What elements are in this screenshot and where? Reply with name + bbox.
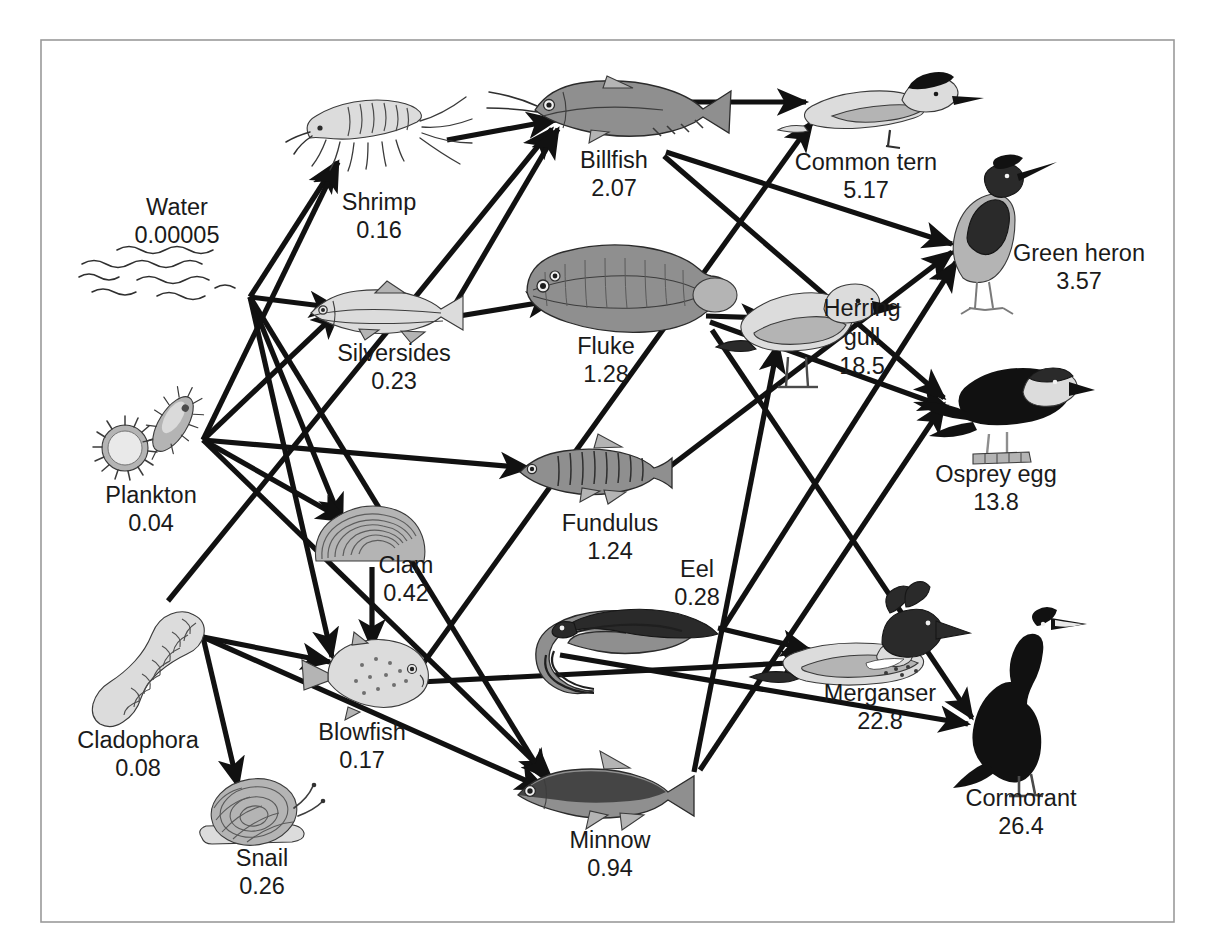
node-value-silversides: 0.23	[371, 368, 417, 394]
edge-eel-to-merganser	[718, 628, 810, 650]
node-value-billfish: 2.07	[591, 175, 637, 201]
edge-water-to-shrimp	[250, 163, 336, 297]
node-label-billfish: Billfish	[580, 147, 648, 173]
node-label-shrimp: Shrimp	[342, 189, 416, 215]
food-web-diagram: Water0.00005Plankton0.04Cladophora0.08Sh…	[0, 0, 1210, 949]
node-ospreyegg: Osprey egg13.8	[935, 461, 1056, 515]
edge-water-to-blowfish	[250, 297, 332, 657]
node-label-blowfish: Blowfish	[318, 719, 406, 745]
node-fluke: Fluke1.28	[577, 333, 634, 387]
node-minnow: Minnow0.94	[570, 827, 652, 881]
node-value-fluke: 1.28	[583, 361, 629, 387]
node-eel: Eel0.28	[674, 556, 720, 610]
node-value-greenheron: 3.57	[1056, 268, 1102, 294]
node-label-greenheron: Green heron	[1013, 240, 1145, 266]
water-waves-icon	[79, 247, 235, 300]
node-label-eel: Eel	[680, 556, 714, 582]
node-label-ospreyegg: Osprey egg	[935, 461, 1056, 487]
node-value-merganser: 22.8	[857, 708, 903, 734]
edge-shrimp-to-billfish	[447, 120, 556, 140]
node-value-herringgull: 18.5	[839, 353, 885, 379]
node-cormorant: Cormorant26.4	[965, 785, 1076, 839]
node-silversides: Silversides0.23	[337, 340, 451, 394]
node-label-cormorant: Cormorant	[965, 785, 1076, 811]
silversides-icon	[311, 281, 463, 343]
cormorant-icon	[953, 607, 1087, 796]
heron-icon	[953, 154, 1057, 314]
node-billfish: Billfish2.07	[580, 147, 648, 201]
node-value-plankton: 0.04	[128, 510, 174, 536]
node-label-water: Water	[146, 194, 208, 220]
osprey-icon	[913, 368, 1095, 464]
node-label-cladophora: Cladophora	[77, 727, 199, 753]
cladophora-icon	[92, 612, 204, 727]
node-value-shrimp: 0.16	[356, 217, 402, 243]
node-snail: Snail0.26	[236, 845, 288, 899]
node-cladophora: Cladophora0.08	[77, 727, 199, 781]
node-fundulus: Fundulus1.24	[562, 510, 659, 564]
billfish-icon	[487, 76, 731, 143]
node-label-clam: Clam	[379, 552, 434, 578]
node-label-silversides: Silversides	[337, 340, 451, 366]
node-label-fluke: Fluke	[577, 333, 634, 359]
snail-icon	[200, 773, 326, 852]
node-commontern: Common tern5.17	[795, 149, 937, 203]
node-label-merganser: Merganser	[824, 680, 936, 706]
node-value-fundulus: 1.24	[587, 538, 633, 564]
node-greenheron: Green heron3.57	[1013, 240, 1145, 294]
node-water: Water0.00005	[135, 194, 220, 248]
edge-cladophora-to-blowfish	[203, 637, 330, 662]
node-shrimp: Shrimp0.16	[342, 189, 416, 243]
node-value-cormorant: 26.4	[998, 813, 1044, 839]
node-plankton: Plankton0.04	[105, 482, 196, 536]
node-value-clam: 0.42	[383, 580, 429, 606]
node-value-minnow: 0.94	[587, 855, 633, 881]
node-value-cladophora: 0.08	[115, 755, 161, 781]
node-value-snail: 0.26	[239, 873, 285, 899]
plankton-icon	[93, 377, 214, 480]
tern-icon	[778, 72, 984, 148]
node-value-ospreyegg: 13.8	[973, 489, 1019, 515]
node-blowfish: Blowfish0.17	[318, 719, 406, 773]
node-value-water: 0.00005	[135, 222, 220, 248]
edge-cladophora-to-snail	[203, 637, 238, 786]
eel-icon	[536, 609, 718, 693]
fluke-icon	[527, 245, 737, 332]
node-label-herringgull: Herring	[823, 295, 900, 321]
shrimp-icon	[286, 97, 472, 171]
node-label-fundulus: Fundulus	[562, 510, 659, 536]
node-label2-herringgull: gull	[844, 324, 881, 350]
edge-plankton-to-fundulus	[203, 440, 529, 468]
node-value-eel: 0.28	[674, 584, 720, 610]
node-label-minnow: Minnow	[570, 827, 652, 853]
node-value-commontern: 5.17	[843, 177, 889, 203]
node-label-plankton: Plankton	[105, 482, 196, 508]
node-label-commontern: Common tern	[795, 149, 937, 175]
minnow-icon	[518, 751, 694, 830]
node-value-blowfish: 0.17	[339, 747, 385, 773]
node-label-snail: Snail	[236, 845, 288, 871]
